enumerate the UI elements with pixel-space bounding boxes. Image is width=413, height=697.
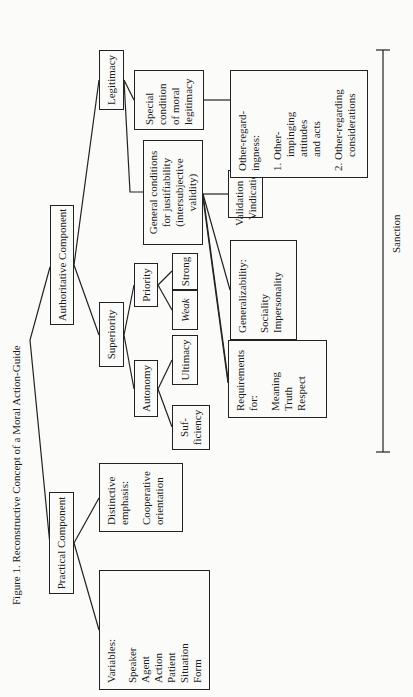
node-generalizability: Generalizability: Sociality Impersonalit… xyxy=(230,240,297,340)
node-superiority: Superiority xyxy=(99,302,124,367)
node-practical-component: Practical Component xyxy=(49,492,74,594)
node-sufficiency: Suf- ficiency xyxy=(172,405,210,450)
node-strong: Strong xyxy=(172,253,198,290)
node-other-regardingness: Other-regard- ingness: 1. Other- impingi… xyxy=(230,70,368,178)
node-general-conditions: General conditions for justifiability (i… xyxy=(143,140,203,245)
node-autonomy: Autonomy xyxy=(134,360,158,417)
node-ultimacy: Ultimacy xyxy=(172,335,198,385)
node-authoritative-component: Authoritative Component xyxy=(50,205,74,325)
node-requirements: Requirements for: Meaning Truth Respect xyxy=(228,340,327,418)
node-distinctive-emphasis: Distinctive emphasis: Cooperative orient… xyxy=(99,463,183,532)
node-priority: Priority xyxy=(134,263,158,307)
node-special-condition: Special condition of moral legitimacy xyxy=(134,70,204,130)
node-variables: Variables: Speaker Agent Action Patient … xyxy=(99,570,210,690)
sanction-label: Sanction xyxy=(390,215,402,254)
diagram-canvas: Figure 1. Reconstructive Concept of a Mo… xyxy=(0,0,413,697)
node-legitimacy: Legitimacy xyxy=(99,50,124,110)
node-weak: Weak xyxy=(172,290,198,330)
